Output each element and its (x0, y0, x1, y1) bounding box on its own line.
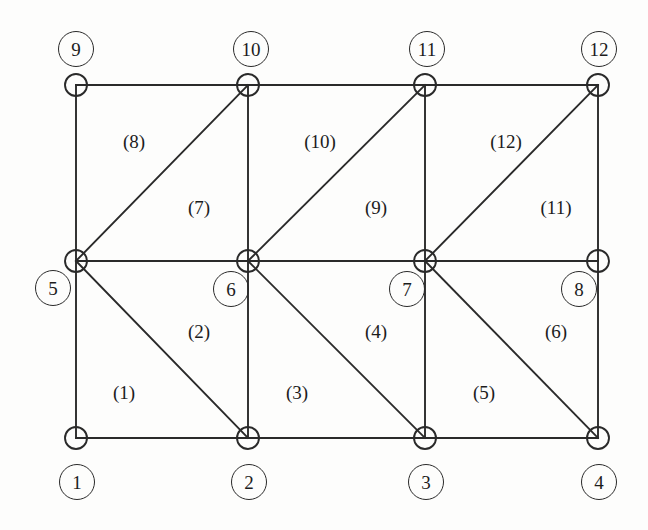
node-number-label-8: 8 (561, 271, 597, 307)
node-number-label-7: 7 (389, 271, 425, 307)
node-number-label-5: 5 (35, 270, 71, 306)
node-number-label-4: 4 (581, 464, 617, 500)
finite-element-mesh-figure: 123456789101112 (1)(2)(3)(4)(5)(6)(7)(8)… (0, 0, 648, 530)
node-number-label-2: 2 (231, 464, 267, 500)
node-number-label-12: 12 (581, 31, 617, 67)
node-number-label-10: 10 (233, 31, 269, 67)
element-number-label-1: (1) (113, 383, 135, 402)
node-number-label-9: 9 (58, 31, 94, 67)
element-number-label-11: (11) (541, 198, 572, 217)
element-number-label-7: (7) (188, 198, 210, 217)
element-number-label-4: (4) (365, 322, 387, 341)
node-number-label-6: 6 (213, 271, 249, 307)
element-number-label-2: (2) (188, 322, 210, 341)
node-number-label-1: 1 (59, 464, 95, 500)
mesh-edge (248, 85, 425, 261)
element-number-label-10: (10) (304, 132, 336, 151)
node-number-label-11: 11 (409, 31, 445, 67)
element-number-label-12: (12) (490, 132, 522, 151)
element-number-label-3: (3) (286, 383, 308, 402)
element-number-label-8: (8) (123, 132, 145, 151)
element-number-label-6: (6) (545, 322, 567, 341)
node-number-label-3: 3 (408, 464, 444, 500)
mesh-edge (76, 85, 248, 261)
mesh-edge (425, 85, 598, 261)
element-number-label-9: (9) (365, 198, 387, 217)
element-number-label-5: (5) (473, 383, 495, 402)
mesh-diagram-canvas (0, 0, 648, 530)
